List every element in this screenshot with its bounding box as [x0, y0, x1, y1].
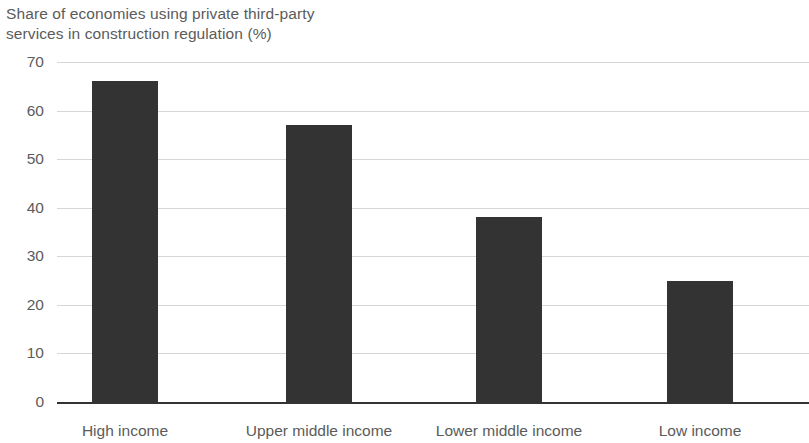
- x-axis-labels: High incomeUpper middle incomeLower midd…: [0, 414, 809, 443]
- bar: [92, 81, 158, 402]
- x-axis-tick-label: Upper middle income: [209, 422, 429, 439]
- bar: [286, 125, 352, 402]
- bar-chart-figure: Share of economies using private third-p…: [0, 0, 809, 443]
- bar-series: [0, 0, 809, 412]
- plot-area: 010203040506070: [0, 0, 809, 412]
- bar: [476, 217, 542, 402]
- x-axis-tick-label: High income: [15, 422, 235, 439]
- bar: [667, 281, 733, 402]
- x-axis-tick-label: Low income: [590, 422, 809, 439]
- x-axis-tick-label: Lower middle income: [399, 422, 619, 439]
